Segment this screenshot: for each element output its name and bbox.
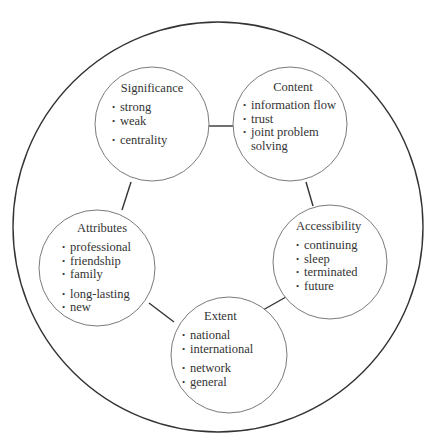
list-item: •joint problem — [243, 126, 343, 140]
list-item: •strong — [112, 101, 192, 115]
link-attributes-extent — [149, 303, 174, 322]
bullet-icon: • — [296, 239, 304, 253]
bullet-icon: • — [112, 134, 120, 148]
list-item: •national — [182, 329, 272, 343]
list-item: •sleep — [296, 253, 376, 267]
list-item: •network — [182, 362, 272, 376]
bullet-icon: • — [112, 101, 120, 115]
link-content-accessibility — [306, 182, 313, 206]
bullet-icon: • — [182, 343, 190, 357]
node-title: Content — [243, 80, 343, 95]
list-item: •trust — [243, 113, 343, 127]
list-item: •international — [182, 343, 272, 357]
bullet-icon: • — [243, 113, 251, 127]
list-item: •family — [62, 268, 142, 282]
bullet-icon: • — [243, 126, 251, 140]
list-item: •professional — [62, 241, 142, 255]
link-significance-attributes — [122, 182, 131, 210]
node-accessibility: Accessibility •continuing •sleep •termin… — [296, 219, 376, 293]
list-item: •weak — [112, 115, 192, 129]
node-title: Extent — [182, 309, 272, 324]
list-item: •future — [296, 280, 376, 294]
bullet-icon: • — [182, 376, 190, 390]
bullet-icon: • — [62, 241, 70, 255]
node-title: Significance — [112, 81, 192, 96]
node-extent: Extent •national •international •network… — [182, 309, 272, 389]
node-significance: Significance •strong •weak •centrality — [112, 81, 192, 148]
list-item-continuation: solving — [243, 140, 343, 154]
list-item: •centrality — [112, 134, 192, 148]
bullet-icon: • — [62, 301, 70, 315]
bullet-icon: • — [296, 280, 304, 294]
bullet-icon: • — [296, 253, 304, 267]
bullet-icon: • — [62, 268, 70, 282]
list-item: •general — [182, 376, 272, 390]
node-title: Accessibility — [296, 219, 376, 234]
bullet-icon: • — [182, 362, 190, 376]
bullet-icon: • — [296, 266, 304, 280]
bullet-icon: • — [243, 99, 251, 113]
list-item: •friendship — [62, 255, 142, 269]
node-attributes: Attributes •professional •friendship •fa… — [62, 221, 142, 315]
list-item: •terminated — [296, 266, 376, 280]
bullet-icon: • — [62, 255, 70, 269]
bullet-icon: • — [112, 115, 120, 129]
list-item: •information flow — [243, 99, 343, 113]
node-title: Attributes — [62, 221, 142, 236]
list-item: •new — [62, 301, 142, 315]
list-item: •long-lasting — [62, 288, 142, 302]
bullet-icon: • — [182, 329, 190, 343]
list-item: •continuing — [296, 239, 376, 253]
node-content: Content •information flow •trust •joint … — [243, 80, 343, 153]
bullet-icon: • — [62, 288, 70, 302]
